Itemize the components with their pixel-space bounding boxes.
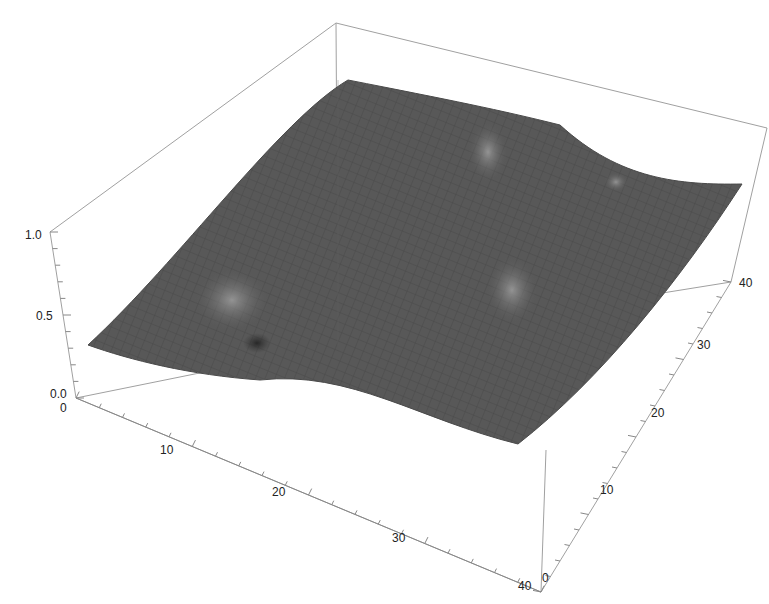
y-tick-label: 10: [600, 483, 614, 497]
x-tick-labels: 0 10 20 30 40: [60, 401, 532, 593]
y-tick-label: 20: [651, 406, 665, 420]
y-tick-label: 30: [697, 338, 711, 352]
x-tick-label: 40: [518, 579, 532, 593]
y-tick-label: 0: [542, 571, 549, 585]
x-tick-label: 30: [392, 531, 406, 545]
z-tick-label: 0.0: [50, 387, 67, 401]
bump-back-right: [604, 172, 628, 192]
y-tick-label: 40: [739, 276, 753, 290]
z-tick-labels: 0.0 0.5 1.0: [25, 228, 67, 401]
z-axis-ticks: [50, 232, 84, 398]
surface: [88, 80, 742, 444]
z-tick-label: 1.0: [25, 228, 42, 242]
x-tick-label: 20: [272, 485, 286, 499]
peak-center: [486, 256, 538, 324]
x-tick-label: 0: [60, 401, 67, 415]
dip-left: [243, 333, 271, 353]
z-tick-label: 0.5: [36, 309, 53, 323]
surface-plot-3d: 0 10 20 30 40 0 10 20 30 40 0.0 0.5 1.0: [0, 0, 769, 604]
x-tick-label: 10: [160, 443, 174, 457]
peak-left: [194, 268, 270, 332]
peak-back: [468, 122, 508, 182]
